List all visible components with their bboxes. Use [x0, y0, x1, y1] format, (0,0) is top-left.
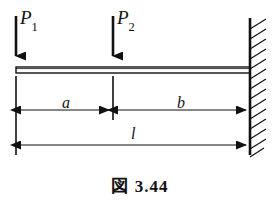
load-label-p2-base: P	[117, 7, 129, 28]
dimension-label-a: a	[62, 95, 70, 111]
figure-caption-symbol: 図	[111, 177, 129, 196]
figure-caption: 図3.44	[0, 172, 279, 197]
load-label-p2: P2	[117, 8, 135, 31]
fixed-wall-support	[250, 18, 266, 157]
dimension-label-l: l	[131, 126, 135, 142]
load-label-p2-subscript: 2	[129, 20, 135, 34]
figure-cantilever-beam: P1 P2 a b l 図3.44	[0, 0, 279, 203]
load-label-p1-subscript: 1	[32, 20, 38, 34]
dimension-label-b: b	[177, 95, 185, 111]
beam-body	[16, 67, 250, 73]
beam	[16, 67, 250, 73]
wall-hatching	[250, 19, 266, 157]
load-label-p1-base: P	[20, 7, 32, 28]
extension-lines	[16, 76, 113, 155]
load-label-p1: P1	[20, 8, 38, 31]
figure-caption-number: 3.44	[135, 177, 169, 196]
